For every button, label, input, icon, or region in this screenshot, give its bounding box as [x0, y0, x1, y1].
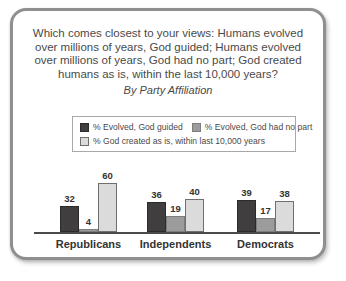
bar [147, 202, 166, 232]
bar-value-label: 4 [86, 216, 91, 227]
bar [237, 200, 256, 232]
x-axis-line [34, 232, 320, 234]
bar-value-label: 40 [189, 186, 200, 197]
bar [256, 218, 275, 232]
bar-value-label: 36 [151, 189, 162, 200]
bar-value-label: 38 [279, 188, 290, 199]
bar [185, 199, 204, 232]
bar [166, 216, 185, 232]
bar [275, 201, 294, 232]
bar-value-label: 17 [260, 205, 271, 216]
bar-chart-area: 32460Republicans361940Independents391738… [13, 11, 323, 257]
category-label-democrats: Democrats [237, 238, 294, 250]
bar [79, 229, 98, 232]
category-label-independents: Independents [140, 238, 212, 250]
bar-value-label: 60 [102, 170, 113, 181]
bar-value-label: 32 [64, 193, 75, 204]
bar-value-label: 39 [241, 187, 252, 198]
bar-value-label: 19 [170, 203, 181, 214]
survey-chart-card: Which comes closest to your views: Human… [10, 8, 326, 260]
category-label-republicans: Republicans [56, 238, 121, 250]
bar [98, 183, 117, 232]
bar [60, 206, 79, 232]
